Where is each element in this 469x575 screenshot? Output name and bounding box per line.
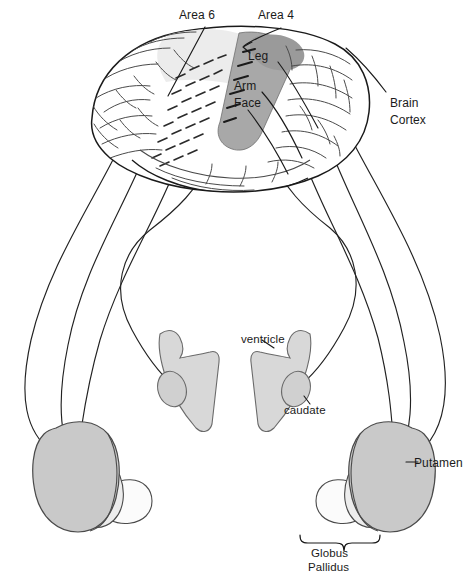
label-arm: Arm — [234, 79, 256, 93]
lentiform-nucleus-right — [316, 422, 435, 532]
fiber-right-second — [330, 148, 411, 458]
putamen-right — [349, 422, 436, 532]
label-brain-cortex-line2: Cortex — [390, 113, 426, 127]
label-globus-line2: Pallidus — [308, 561, 349, 573]
brain-cortex-structure — [92, 26, 370, 193]
label-putamen: Putamen — [414, 456, 463, 470]
anatomy-illustration: Area 6 Area 4 Leg Arm Face Brain Cortex … — [0, 0, 469, 575]
fiber-left-outer — [25, 150, 118, 452]
label-area-4: Area 4 — [258, 8, 294, 22]
putamen-left — [33, 422, 120, 532]
diagram-canvas: Area 6 Area 4 Leg Arm Face Brain Cortex … — [0, 0, 469, 575]
label-globus-line1: Globus — [311, 547, 348, 559]
fiber-left-second — [61, 152, 146, 460]
label-leg: Leg — [248, 49, 268, 63]
label-brain-cortex-line1: Brain — [390, 96, 419, 110]
fiber-right-outer — [352, 140, 445, 454]
label-ventricle: ventricle — [241, 333, 285, 345]
label-face: Face — [234, 96, 261, 110]
label-caudate: caudate — [284, 404, 326, 416]
label-area-6: Area 6 — [179, 8, 215, 22]
lentiform-nucleus-left — [33, 422, 152, 532]
